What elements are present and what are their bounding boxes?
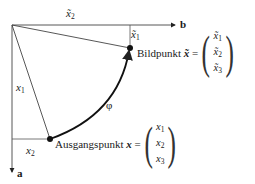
- x2-label: x2: [26, 145, 35, 158]
- image-vector: [12, 25, 130, 48]
- bildpunkt-dot: [127, 45, 133, 51]
- bildpunkt-label: Bildpunkt x̃ = ( x̃1 x̃2 x̃3 ): [137, 29, 237, 77]
- bildpunkt-symbol: x̃: [184, 47, 190, 59]
- ausgangspunkt-dot: [47, 136, 53, 142]
- bildpunkt-text: Bildpunkt: [137, 47, 181, 59]
- right-paren: ): [225, 30, 233, 76]
- x1-label: x1: [16, 82, 25, 95]
- bildpunkt-equals: =: [192, 47, 198, 59]
- ausgangspunkt-label: Ausgangspunkt x = ( x1 x2 x3 ): [55, 120, 180, 168]
- phi-label: φ: [106, 100, 112, 111]
- bildpunkt-components: x̃1 x̃2 x̃3: [214, 29, 222, 77]
- left-paren: (: [202, 30, 210, 76]
- a-axis-label: a: [17, 168, 23, 179]
- right-paren: ): [168, 121, 176, 167]
- ausgangspunkt-components: x1 x2 x3: [156, 120, 164, 168]
- ausgangspunkt-text: Ausgangspunkt: [55, 138, 123, 150]
- ausgangspunkt-symbol: x: [126, 138, 132, 150]
- ausgangspunkt-equals: =: [134, 138, 140, 150]
- left-paren: (: [144, 121, 152, 167]
- x2-tilde-label: x̃2: [66, 8, 75, 21]
